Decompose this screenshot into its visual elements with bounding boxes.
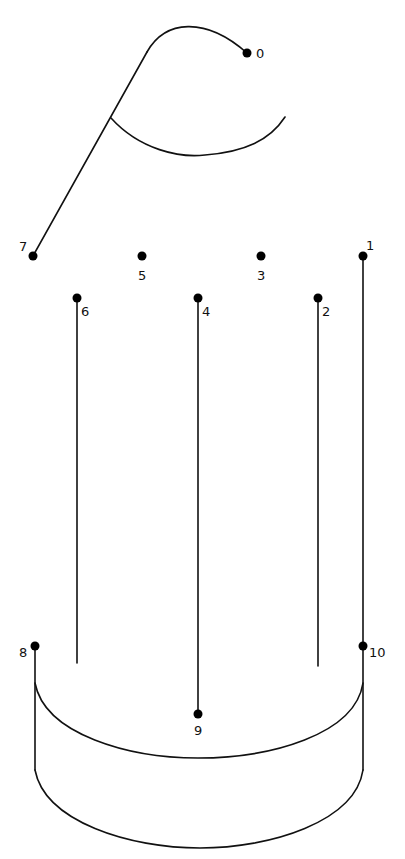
dot-1[interactable]: 1 (359, 238, 375, 261)
dot-number-label: 0 (256, 46, 264, 61)
dot-marker[interactable] (314, 294, 323, 303)
top-hook-arc (147, 27, 247, 53)
base-upper-arc (35, 683, 363, 758)
dot-number-label: 2 (322, 304, 330, 319)
dot-marker[interactable] (243, 49, 252, 58)
dot-number-label: 8 (19, 645, 27, 660)
dot-marker[interactable] (359, 642, 368, 651)
dot-number-label: 3 (257, 268, 265, 283)
dot-marker[interactable] (31, 642, 40, 651)
dot-marker[interactable] (29, 252, 38, 261)
dot-8[interactable]: 8 (19, 642, 40, 661)
dot-number-label: 9 (194, 723, 202, 738)
inner-curve (111, 117, 285, 156)
dot-number-label: 5 (138, 268, 146, 283)
dot-3[interactable]: 3 (257, 252, 266, 284)
numbered-dots: 012345678910 (19, 46, 386, 738)
dot-marker[interactable] (257, 252, 266, 261)
dot-4[interactable]: 4 (194, 294, 211, 320)
base-lower-arc (35, 770, 363, 848)
dot-7[interactable]: 7 (19, 239, 38, 261)
dot-number-label: 7 (19, 239, 27, 254)
dot-number-label: 4 (202, 304, 210, 319)
dot-to-dot-canvas: 012345678910 (0, 0, 405, 859)
dot-0[interactable]: 0 (243, 46, 265, 61)
dot-marker[interactable] (73, 294, 82, 303)
dot-2[interactable]: 2 (314, 294, 331, 320)
dot-number-label: 6 (81, 304, 89, 319)
dot-5[interactable]: 5 (138, 252, 147, 284)
dot-number-label: 1 (366, 238, 374, 253)
diagonal-line (33, 52, 147, 256)
dot-marker[interactable] (194, 294, 203, 303)
dot-marker[interactable] (138, 252, 147, 261)
dot-number-label: 10 (369, 645, 386, 660)
dot-9[interactable]: 9 (194, 710, 203, 739)
dot-6[interactable]: 6 (73, 294, 90, 320)
dot-marker[interactable] (194, 710, 203, 719)
